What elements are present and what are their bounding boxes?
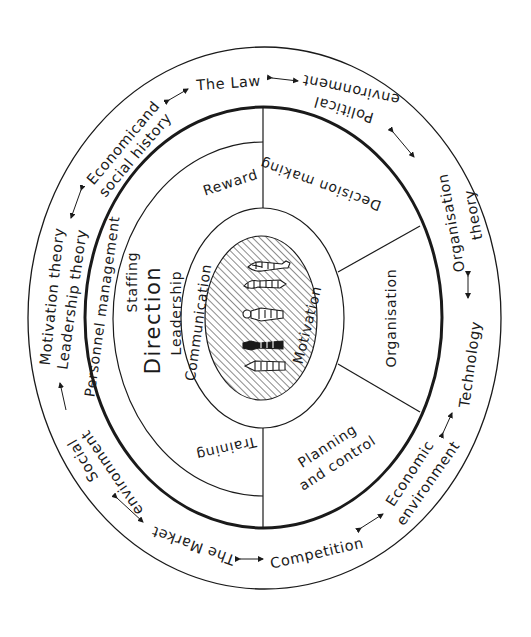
label-the-law: The Law [195,73,262,94]
label-leadership: Leadership [168,271,184,356]
label-competition: Competition [269,535,365,572]
label-staffing: Staffing [124,252,140,313]
label-organisation: Organisation [383,268,399,367]
label-training: Training [194,434,259,464]
label-the-market: The Market [149,523,238,568]
label-organisation-theory-line1: Organisation [435,172,468,273]
label-direction: Direction [141,266,165,374]
label-organisation-theory-line2: theory [461,188,486,241]
divider-upper-right [338,226,420,272]
label-reward: Reward [201,166,260,199]
figure-4 [243,341,283,350]
label-technology: Technology [456,320,484,410]
label-decision-making: Decision making [257,155,383,214]
figure-5 [245,361,285,371]
divider-lower-right [338,364,420,412]
figure-2 [244,280,286,289]
management-environment-diagram: The Law Political environment Organisati… [0,0,531,637]
